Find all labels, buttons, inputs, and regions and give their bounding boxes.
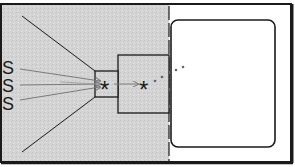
trail-dot: [154, 80, 157, 83]
screen-rounded-rect: [171, 20, 275, 147]
source-label: S: [2, 94, 14, 114]
source-label: S: [2, 58, 14, 78]
trail-dot: [175, 69, 178, 72]
inner-star-icon: *: [100, 76, 109, 103]
source-label: S: [2, 76, 14, 96]
trail-dot: [161, 76, 164, 79]
outer-star-icon: *: [139, 76, 148, 103]
trail-dot: [182, 66, 185, 69]
diagram-canvas: S S S * *: [0, 0, 295, 167]
